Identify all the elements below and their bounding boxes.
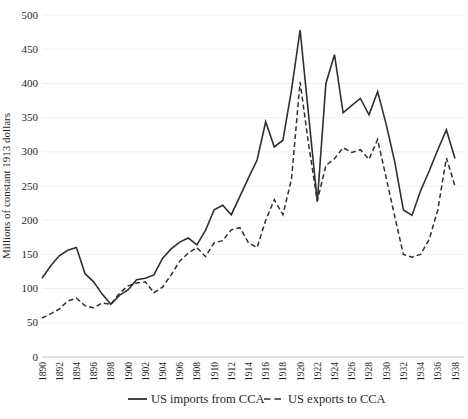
x-tick-label: 1920 bbox=[296, 362, 306, 381]
x-tick-label: 1914 bbox=[244, 362, 254, 381]
y-tick-label: 200 bbox=[22, 214, 39, 226]
y-tick-labels: 050100150200250300350400450500 bbox=[22, 9, 39, 363]
x-tick-label: 1916 bbox=[261, 362, 271, 381]
x-tick-label: 1910 bbox=[210, 362, 220, 381]
x-tick-label: 1902 bbox=[141, 362, 151, 381]
y-tick-label: 150 bbox=[22, 248, 39, 260]
x-tick-label: 1936 bbox=[433, 362, 443, 381]
x-tick-label: 1908 bbox=[192, 362, 202, 381]
y-tick-label: 50 bbox=[27, 316, 39, 328]
y-tick-label: 100 bbox=[22, 282, 39, 294]
x-tick-label: 1904 bbox=[158, 362, 168, 381]
x-tick-label: 1918 bbox=[278, 362, 288, 381]
y-tick-label: 0 bbox=[33, 351, 39, 363]
x-tick-label: 1906 bbox=[175, 362, 185, 381]
x-tick-label: 1900 bbox=[124, 362, 134, 381]
x-tick-label: 1932 bbox=[399, 362, 409, 381]
series-line-imports bbox=[42, 30, 455, 304]
y-tick-label: 350 bbox=[22, 111, 39, 123]
x-tick-label: 1912 bbox=[227, 362, 237, 381]
y-tick-label: 450 bbox=[22, 43, 39, 55]
x-tick-labels: 1890189218941896189819001902190419061908… bbox=[38, 362, 461, 381]
y-tick-label: 250 bbox=[22, 180, 39, 192]
y-tick-label: 400 bbox=[22, 77, 39, 89]
x-tick-label: 1924 bbox=[330, 362, 340, 381]
x-tick-label: 1928 bbox=[364, 362, 374, 381]
x-tick-label: 1892 bbox=[55, 362, 65, 381]
x-tick-label: 1926 bbox=[347, 362, 357, 381]
x-tick-label: 1934 bbox=[416, 362, 426, 381]
x-tick-label: 1922 bbox=[313, 362, 323, 381]
line-chart: 050100150200250300350400450500 189018921… bbox=[0, 0, 468, 419]
x-tick-label: 1898 bbox=[106, 362, 116, 381]
x-tick-label: 1890 bbox=[38, 362, 48, 381]
legend: US imports from CCA US exports to CCA bbox=[128, 392, 386, 406]
legend-label-imports: US imports from CCA bbox=[151, 392, 265, 406]
y-axis-title: Millions of constant 1913 dollars bbox=[0, 113, 12, 259]
x-tick-label: 1894 bbox=[72, 362, 82, 381]
y-tick-label: 300 bbox=[22, 145, 39, 157]
y-tick-label: 500 bbox=[22, 9, 39, 21]
x-tick-label: 1938 bbox=[451, 362, 461, 381]
series-layer bbox=[42, 30, 455, 318]
x-tick-label: 1896 bbox=[89, 362, 99, 381]
legend-label-exports: US exports to CCA bbox=[288, 392, 386, 406]
x-tick-label: 1930 bbox=[382, 362, 392, 381]
line-chart-figure: 050100150200250300350400450500 189018921… bbox=[0, 0, 468, 419]
